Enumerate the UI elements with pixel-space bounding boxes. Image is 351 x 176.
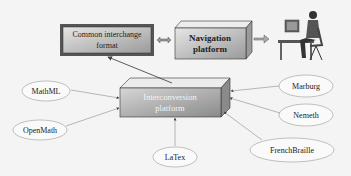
diagram-canvas: Common interchange format Navigation pla… [0, 0, 351, 176]
frenchbraille-label: FrenchBraille [270, 146, 314, 155]
interconversion-label-1: Interconversion [143, 92, 197, 102]
nemeth-label: Nemeth [293, 111, 318, 120]
marburg-node: Marburg [279, 75, 333, 97]
common-format-label-2: format [96, 41, 118, 50]
marburg-label: Marburg [292, 82, 320, 91]
arrow-openmath [66, 108, 119, 126]
openmath-label: OpenMath [23, 126, 57, 135]
interconversion-label-2: platform [155, 103, 185, 113]
navigation-label-2: platform [193, 44, 227, 54]
common-interchange-format-box: Common interchange format [60, 24, 154, 56]
mathml-label: MathML [32, 87, 61, 96]
interconversion-platform-box: Interconversion platform [120, 78, 230, 117]
arrow-nemeth [230, 98, 280, 113]
openmath-node: OpenMath [13, 120, 67, 140]
bidirectional-arrow-icon [157, 37, 171, 43]
navigation-platform-box: Navigation platform [175, 21, 252, 59]
common-format-label-1: Common interchange [72, 30, 142, 39]
arrow-frenchbraille [224, 112, 262, 140]
arrow-mathml [71, 90, 119, 98]
latex-node: LaTex [153, 147, 197, 167]
latex-label: LaTex [165, 153, 185, 162]
arrow-marburg [231, 86, 279, 91]
frenchbraille-node: FrenchBraille [250, 138, 334, 162]
nemeth-node: Nemeth [279, 104, 333, 126]
right-arrow-icon [254, 35, 269, 43]
person-at-computer-icon [278, 11, 322, 60]
mathml-node: MathML [22, 81, 70, 101]
navigation-label-1: Navigation [189, 33, 231, 43]
